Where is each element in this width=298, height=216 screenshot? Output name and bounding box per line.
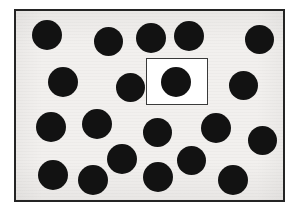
dot	[36, 112, 66, 142]
dot	[248, 126, 277, 155]
dot-field-panel	[14, 9, 285, 202]
dot	[38, 160, 68, 190]
highlighted-dot	[161, 67, 191, 97]
dot	[107, 144, 137, 174]
dot	[229, 71, 258, 100]
dot	[143, 162, 173, 192]
dot	[143, 118, 172, 147]
dot	[177, 146, 206, 175]
dot	[94, 27, 123, 56]
dot	[32, 20, 62, 50]
dot	[78, 165, 108, 195]
dot	[218, 165, 248, 195]
dot	[116, 73, 145, 102]
dot	[136, 23, 166, 53]
dot	[48, 67, 78, 97]
dot	[201, 113, 231, 143]
figure-root	[0, 0, 298, 216]
dot	[82, 109, 112, 139]
dot	[245, 25, 274, 54]
dot	[174, 21, 204, 51]
